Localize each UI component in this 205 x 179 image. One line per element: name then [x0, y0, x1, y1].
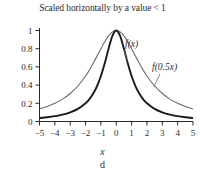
y-tick-label: 0.2: [21, 99, 32, 109]
x-tick-label: 5: [191, 128, 196, 138]
x-tick-label: −4: [50, 128, 60, 138]
x-tick-label: 3: [160, 128, 165, 138]
y-tick-labels: 00.20.40.60.81: [21, 26, 33, 127]
x-tick-label: −3: [65, 128, 75, 138]
x-axis-label: x: [0, 146, 205, 157]
curve-f-x: [40, 31, 194, 119]
figure-panel: Scaled horizontally by a value < 1 00.20…: [0, 0, 205, 179]
y-tick-label: 1: [28, 26, 33, 36]
curve-label-f-0.5x: f(0.5x): [152, 62, 177, 73]
x-tick-label: 4: [175, 128, 180, 138]
y-tick-label: 0.8: [21, 44, 33, 54]
x-tick-label: 0: [114, 128, 119, 138]
leader-line-f-0.5x: [154, 74, 160, 87]
y-tick-label: 0.6: [21, 62, 33, 72]
panel-caption: d: [0, 159, 205, 170]
y-ticks-group: [36, 31, 40, 122]
x-tick-label: −1: [96, 128, 106, 138]
x-tick-label: 2: [145, 128, 150, 138]
x-tick-labels: −5−4−3−2−1012345: [35, 128, 196, 138]
axes-group: [40, 28, 194, 122]
x-tick-label: −5: [35, 128, 45, 138]
y-tick-label: 0.4: [21, 80, 33, 90]
curve-label-f-x: f(x): [125, 39, 138, 50]
x-tick-label: −2: [81, 128, 91, 138]
y-tick-label: 0: [28, 117, 33, 127]
x-ticks-group: [40, 122, 194, 126]
x-tick-label: 1: [129, 128, 134, 138]
